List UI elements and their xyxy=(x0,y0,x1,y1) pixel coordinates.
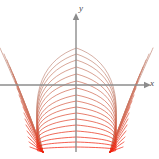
x-axis-label: x xyxy=(150,79,154,88)
figure-canvas: y x xyxy=(0,0,159,159)
y-axis-label: y xyxy=(79,4,83,13)
curve-family-plot xyxy=(0,0,159,159)
axes-layer xyxy=(0,13,151,152)
y-axis-arrow xyxy=(73,13,79,20)
